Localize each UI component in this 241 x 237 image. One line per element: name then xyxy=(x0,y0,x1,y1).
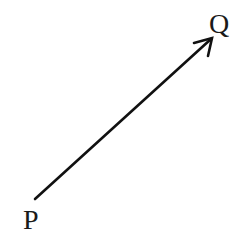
vector-line xyxy=(35,39,211,199)
vector-diagram: P Q xyxy=(0,0,241,237)
point-q-label: Q xyxy=(209,8,229,39)
point-p-label: P xyxy=(23,204,39,235)
